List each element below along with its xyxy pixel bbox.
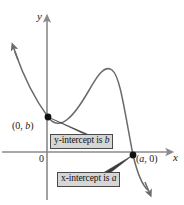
y-intercept-point-label: (0, b) <box>12 121 34 131</box>
y-intercept-label-prefix: (0, <box>12 120 25 131</box>
y-intercept-callout: y-intercept is b <box>50 134 113 149</box>
y-intercept-callout-text: y-intercept is <box>54 135 105 145</box>
function-curve <box>15 52 148 190</box>
origin-label: 0 <box>39 154 44 164</box>
y-axis-label: y <box>37 11 42 22</box>
x-intercept-point-label: (a, 0) <box>136 154 158 164</box>
x-intercept-label-close: , 0) <box>144 153 157 164</box>
x-axis-label: x <box>173 152 178 163</box>
graph-figure: y x 0 (0, b) (a, 0) y-intercept is b x-i… <box>0 0 184 205</box>
x-intercept-callout: x-intercept is a <box>57 172 120 187</box>
y-intercept-callout-var: b <box>105 135 110 145</box>
y-intercept-label-close: ) <box>30 120 33 131</box>
curve-arrow-upper-left <box>13 46 18 60</box>
x-intercept-callout-var: a <box>112 173 117 183</box>
y-intercept-dot <box>45 114 52 121</box>
x-intercept-callout-text: x-intercept is <box>61 173 112 183</box>
